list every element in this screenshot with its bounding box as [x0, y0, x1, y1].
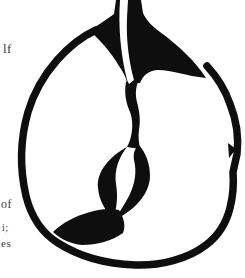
book-page-scan: lf of i; es — [0, 0, 245, 278]
stem-and-calyx-mass — [90, 0, 206, 83]
apple-illustration — [0, 0, 245, 278]
core-column — [125, 82, 140, 149]
core-base-blob — [53, 209, 124, 245]
